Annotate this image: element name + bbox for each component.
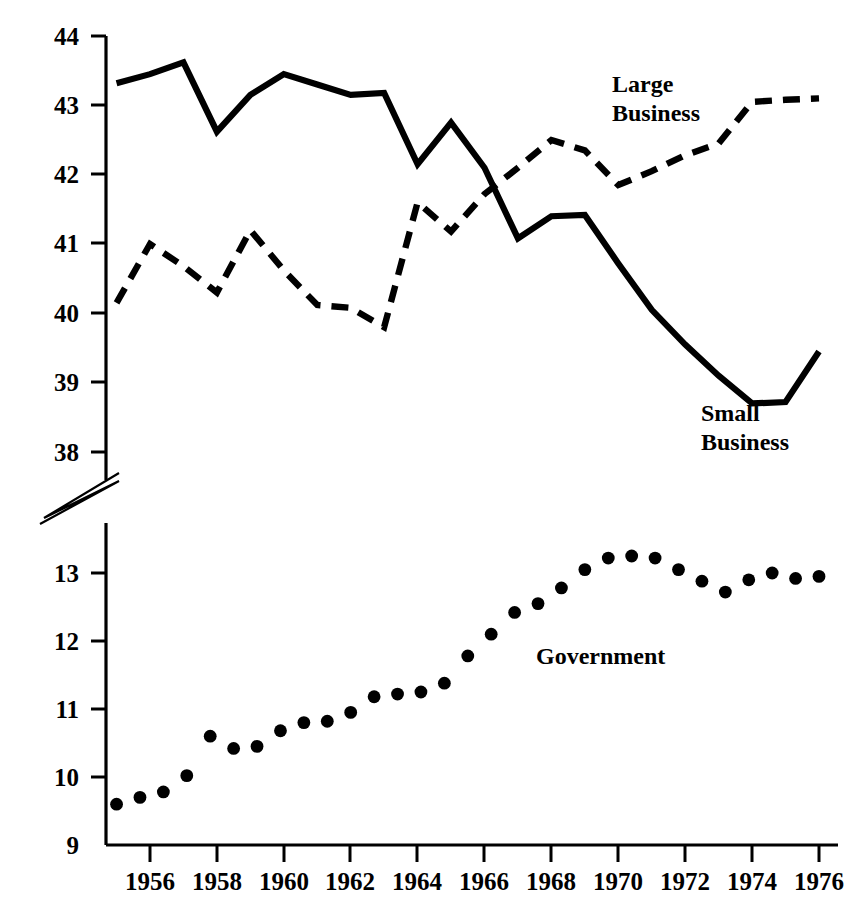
x-axis: 1956 1958 1960 1962 1964 1966 1968 1970 …	[106, 845, 844, 895]
annotation-government: Government	[536, 643, 665, 669]
x-label-1970: 1970	[593, 868, 643, 895]
data-point-government	[438, 677, 451, 690]
data-point-government	[766, 567, 779, 580]
lower-y-tick-marks	[91, 573, 106, 777]
x-tick-marks	[150, 845, 819, 862]
annotation-small-business-line2: Business	[701, 429, 789, 455]
upper-y-tick-labels: 44 43 42 41 40 39 38	[54, 23, 80, 466]
data-point-government	[297, 716, 310, 729]
series-line-small-business	[117, 62, 819, 403]
annotation-large-business-line1: Large	[612, 71, 674, 97]
y-label-38: 38	[54, 439, 79, 466]
x-label-1956: 1956	[125, 868, 175, 895]
x-tick-labels: 1956 1958 1960 1962 1964 1966 1968 1970 …	[125, 868, 844, 895]
y-label-13: 13	[54, 560, 79, 587]
lower-y-tick-labels: 13 12 11 10 9	[54, 560, 79, 859]
x-label-1964: 1964	[392, 868, 443, 895]
x-label-1972: 1972	[660, 868, 710, 895]
y-label-11: 11	[55, 696, 79, 723]
data-point-government	[696, 575, 709, 588]
axis-break-marker	[40, 473, 119, 524]
y-label-12: 12	[54, 628, 79, 655]
data-point-government	[625, 550, 638, 563]
data-point-government	[391, 688, 404, 701]
upper-y-tick-marks	[91, 36, 106, 452]
lower-y-axis: 13 12 11 10 9	[54, 523, 106, 859]
data-point-government	[274, 724, 287, 737]
data-point-government	[415, 686, 428, 699]
data-point-government	[485, 628, 498, 641]
x-label-1974: 1974	[727, 868, 778, 895]
y-label-9: 9	[67, 832, 80, 859]
axis-break-zigzag	[40, 473, 119, 524]
data-point-government	[321, 715, 334, 728]
y-label-42: 42	[54, 161, 79, 188]
series-dots-government	[110, 550, 825, 811]
x-label-1976: 1976	[794, 868, 844, 895]
data-point-government	[180, 769, 193, 782]
data-point-government	[602, 552, 615, 565]
x-label-1962: 1962	[325, 868, 375, 895]
data-point-government	[110, 798, 123, 811]
data-point-government	[672, 563, 685, 576]
x-label-1960: 1960	[259, 868, 309, 895]
x-label-1958: 1958	[192, 868, 242, 895]
x-label-1966: 1966	[459, 868, 509, 895]
data-point-government	[742, 573, 755, 586]
data-point-government	[508, 606, 521, 619]
annotation-small-business-line1: Small	[701, 400, 760, 426]
data-point-government	[134, 791, 147, 804]
annotation-large-business-line2: Business	[612, 100, 700, 126]
data-point-government	[251, 740, 264, 753]
data-point-government	[719, 586, 732, 599]
y-label-40: 40	[54, 300, 79, 327]
data-point-government	[578, 563, 591, 576]
data-point-government	[344, 706, 357, 719]
chart-container: 44 43 42 41 40 39 38 13 12	[0, 0, 866, 911]
chart-figure: 44 43 42 41 40 39 38 13 12	[0, 0, 866, 911]
data-point-government	[204, 730, 217, 743]
data-point-government	[157, 786, 170, 799]
data-point-government	[227, 742, 240, 755]
data-point-government	[461, 650, 474, 663]
upper-y-axis: 44 43 42 41 40 39 38	[54, 23, 106, 480]
y-label-39: 39	[54, 369, 79, 396]
series-line-large-business	[117, 98, 819, 327]
y-label-41: 41	[54, 230, 79, 257]
y-label-43: 43	[54, 92, 79, 119]
data-point-government	[813, 570, 826, 583]
data-point-government	[649, 552, 662, 565]
y-label-44: 44	[54, 23, 80, 50]
y-label-10: 10	[54, 764, 79, 791]
data-point-government	[368, 690, 381, 703]
data-point-government	[789, 572, 802, 585]
x-label-1968: 1968	[526, 868, 576, 895]
data-point-government	[555, 582, 568, 595]
data-point-government	[532, 597, 545, 610]
